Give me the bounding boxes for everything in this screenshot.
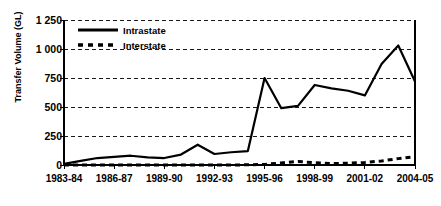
- data-series-layer: [64, 46, 415, 165]
- series-line-intrastate: [64, 46, 415, 164]
- x-tick-label: 1983-84: [39, 174, 89, 184]
- x-tick-label: 1989-90: [139, 174, 189, 184]
- y-tick-label: 0: [18, 160, 62, 171]
- chart-legend: IntrastateInterstate: [78, 25, 166, 51]
- gridlines: [64, 20, 415, 136]
- y-tick-label: 250: [18, 131, 62, 142]
- x-tick-label: 2001-02: [340, 174, 390, 184]
- y-tick-label: 500: [18, 102, 62, 113]
- x-tick-label: 1998-99: [290, 174, 340, 184]
- x-tick-label: 1986-87: [89, 174, 139, 184]
- legend-label-interstate: Interstate: [123, 40, 166, 51]
- axis-lines: [60, 20, 415, 165]
- series-line-interstate: [64, 157, 415, 165]
- chart-container: Transfer Volume (GL) 1 250 1 000 750 500…: [0, 0, 441, 206]
- x-tick-label: 2004-05: [390, 174, 440, 184]
- y-tick-label: 750: [18, 73, 62, 84]
- y-tick-label: 1 000: [18, 44, 62, 55]
- x-tick-label: 1995-96: [240, 174, 290, 184]
- x-tick-label: 1992-93: [189, 174, 239, 184]
- legend-label-intrastate: Intrastate: [123, 25, 166, 36]
- y-tick-label: 1 250: [18, 15, 62, 26]
